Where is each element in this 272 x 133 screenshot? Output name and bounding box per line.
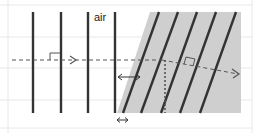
wavelength-medium-arrow xyxy=(117,118,128,123)
air-label: air xyxy=(94,11,106,23)
air-wavefronts xyxy=(33,12,115,113)
right-angle-marker-incident-icon xyxy=(50,53,60,60)
refraction-diagram xyxy=(0,0,272,133)
